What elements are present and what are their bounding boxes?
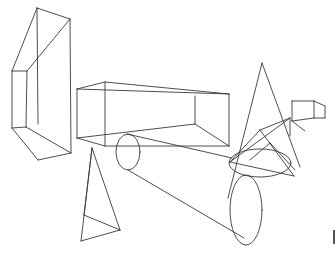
- edge-line: [12, 128, 38, 160]
- edge-line: [26, 71, 27, 127]
- edge-line: [77, 138, 105, 146]
- tall-prism: [12, 8, 71, 160]
- edge-line: [230, 130, 260, 162]
- edge-line: [12, 127, 26, 128]
- edge-line: [77, 82, 105, 89]
- ellipse-outline: [116, 134, 140, 170]
- edge-line: [292, 118, 314, 121]
- edge-line: [292, 121, 305, 131]
- tall-cone: [228, 63, 300, 198]
- edge-line: [70, 19, 71, 153]
- edge-line: [92, 148, 120, 230]
- edge-line: [12, 8, 37, 71]
- thin-pyramid: [81, 148, 120, 241]
- long-box: [77, 82, 229, 146]
- edge-line: [27, 19, 70, 71]
- edge-line: [81, 230, 120, 241]
- small-cylinder-link: [116, 134, 244, 238]
- edge-line: [84, 215, 120, 230]
- edge-line: [37, 8, 70, 19]
- edge-line: [270, 143, 295, 170]
- edge-line: [128, 170, 244, 238]
- wireframe-canvas: [0, 0, 335, 260]
- ellipse-outline: [230, 175, 262, 245]
- edge-line: [37, 8, 38, 124]
- edge-line: [228, 63, 262, 198]
- edge-line: [38, 153, 71, 160]
- edge-line: [84, 148, 92, 215]
- big-ellipse: [230, 175, 262, 245]
- edge-line: [314, 101, 325, 106]
- edge-line: [26, 127, 71, 153]
- edge-line: [262, 63, 300, 167]
- small-cube: [292, 101, 325, 131]
- edge-line: [195, 124, 229, 146]
